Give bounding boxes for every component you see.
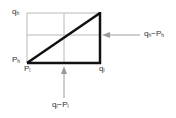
label-sub: h xyxy=(17,58,20,64)
label-top-left: qh xyxy=(12,8,19,16)
label-bottom-right: ql xyxy=(99,65,105,73)
label-bottom-left-lower: Pl xyxy=(24,65,30,73)
label-b-sub: h xyxy=(161,32,164,38)
label-sub: l xyxy=(29,67,30,73)
diagram-canvas xyxy=(0,0,176,118)
label-right-arrow: qh−Ph xyxy=(144,30,164,38)
bottom-arrow-head-icon xyxy=(61,66,67,74)
label-sub: l xyxy=(103,67,104,73)
label-b-sub: l xyxy=(68,103,69,109)
label-sub: h xyxy=(16,10,19,16)
label-bottom-arrow: ql−Pl xyxy=(52,101,69,109)
right-arrow-head-icon xyxy=(102,32,110,38)
label-bottom-left-upper: Ph xyxy=(12,56,20,64)
